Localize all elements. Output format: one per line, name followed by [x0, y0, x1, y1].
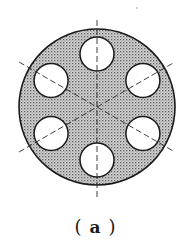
perforated-disk-diagram: [0, 0, 191, 245]
figure-caption: ( a ): [0, 216, 191, 237]
hole-2: [126, 64, 160, 98]
caption-label: a: [89, 217, 101, 237]
caption-close-paren: ): [108, 216, 116, 237]
caption-open-paren: (: [75, 216, 83, 237]
hole-3: [126, 117, 160, 151]
stray-mark: [136, 7, 137, 8]
